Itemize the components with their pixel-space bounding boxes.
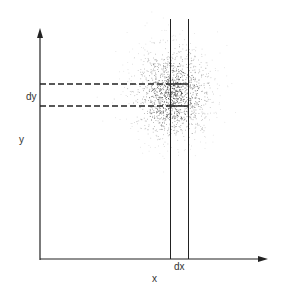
scatter-cloud bbox=[97, 0, 236, 172]
x-axis-label: x bbox=[152, 273, 157, 284]
y-axis-arrow-icon bbox=[37, 28, 43, 38]
y-axis-label: y bbox=[19, 134, 24, 145]
x-axis-arrow-icon bbox=[258, 256, 268, 262]
dy-label: dy bbox=[26, 91, 37, 102]
dx-label: dx bbox=[174, 261, 185, 272]
diagram-canvas bbox=[0, 0, 283, 294]
